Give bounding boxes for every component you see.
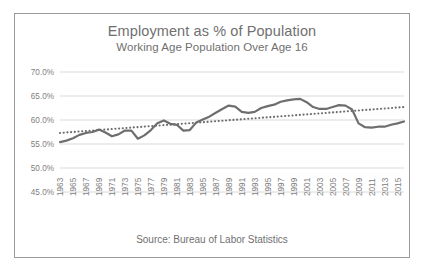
x-axis-tick-label: 2001: [303, 177, 312, 196]
x-axis-tick-label: 1977: [147, 177, 156, 196]
x-axis-tick-label: 1979: [160, 177, 169, 196]
x-axis-tick-label: 1971: [108, 177, 117, 196]
x-axis-tick-label: 1993: [251, 177, 260, 196]
chart-plot-area: 70.0%65.0%60.0%55.0%50.0%45.0%1963196519…: [15, 14, 408, 256]
y-axis-tick-label: 45.0%: [31, 188, 54, 197]
x-axis-tick-label: 1965: [69, 177, 78, 196]
x-axis-tick-label: 1987: [212, 177, 221, 196]
x-axis-tick-label: 1973: [121, 177, 130, 196]
y-axis-tick-label: 70.0%: [31, 68, 54, 77]
chart-frame: Employment as % of Population Working Ag…: [14, 13, 410, 258]
x-axis-tick-label: 2005: [329, 177, 338, 196]
x-axis-tick-label: 2009: [355, 177, 364, 196]
x-axis-tick-label: 1991: [238, 177, 247, 196]
x-axis-tick-label: 1995: [264, 177, 273, 196]
x-axis-tick-label: 1975: [134, 177, 143, 196]
x-axis-tick-label: 1967: [82, 177, 91, 196]
x-axis-tick-label: 2007: [342, 177, 351, 196]
x-axis-tick-label: 1985: [199, 177, 208, 196]
x-axis-tick-label: 2015: [394, 177, 403, 196]
x-axis-tick-label: 1999: [290, 177, 299, 196]
x-axis-tick-label: 1997: [277, 177, 286, 196]
y-axis-tick-label: 55.0%: [31, 140, 54, 149]
x-axis-tick-label: 1969: [95, 177, 104, 196]
x-axis-tick-label: 2003: [316, 177, 325, 196]
x-axis-tick-label: 2013: [381, 177, 390, 196]
x-axis-tick-label: 1983: [186, 177, 195, 196]
y-axis-tick-label: 50.0%: [31, 164, 54, 173]
y-axis-tick-label: 60.0%: [31, 116, 54, 125]
x-axis-tick-label: 2011: [368, 178, 377, 196]
y-axis-tick-label: 65.0%: [31, 92, 54, 101]
x-axis-tick-label: 1989: [225, 177, 234, 196]
chart-container: Employment as % of Population Working Ag…: [15, 14, 409, 257]
x-axis-tick-label: 1963: [56, 177, 65, 196]
x-axis-tick-label: 1981: [173, 177, 182, 196]
chart-source-note: Source: Bureau of Labor Statistics: [15, 234, 409, 245]
